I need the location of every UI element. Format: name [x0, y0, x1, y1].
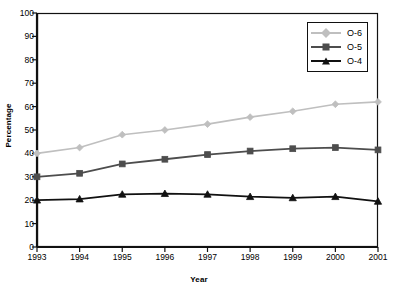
legend-label-o-6: O-6: [347, 28, 362, 38]
triangle-marker-icon: [322, 58, 330, 65]
x-axis-tick-label: 1993: [28, 252, 47, 262]
legend-item-o-5[interactable]: O-5: [311, 40, 362, 54]
x-axis-tick-label: 2000: [326, 252, 345, 262]
legend-label-o-4: O-4: [347, 56, 362, 66]
x-axis-tick-label: 1994: [70, 252, 89, 262]
diamond-marker-icon: [321, 28, 331, 38]
legend-swatch-o-5: [311, 41, 341, 53]
x-axis-tick-label: 1995: [113, 252, 132, 262]
x-axis-tick-label: 1997: [198, 252, 217, 262]
x-axis-label: Year: [190, 275, 207, 284]
legend-label-o-5: O-5: [347, 42, 362, 52]
legend-swatch-o-6: [311, 27, 341, 39]
x-axis-tick-label: 1998: [241, 252, 260, 262]
x-axis-tick-label: 1996: [155, 252, 174, 262]
x-axis-tick-label: 2001: [369, 252, 388, 262]
legend-item-o-4[interactable]: O-4: [311, 54, 362, 68]
chart-legend: O-6O-5O-4: [307, 22, 368, 72]
legend-swatch-o-4: [311, 55, 341, 67]
x-axis-tick-label: 1999: [283, 252, 302, 262]
square-marker-icon: [323, 44, 330, 51]
legend-item-o-6[interactable]: O-6: [311, 26, 362, 40]
x-axis-label-container: Year: [0, 268, 398, 286]
line-chart-figure: Percentage 0102030405060708090100 199319…: [0, 0, 398, 287]
